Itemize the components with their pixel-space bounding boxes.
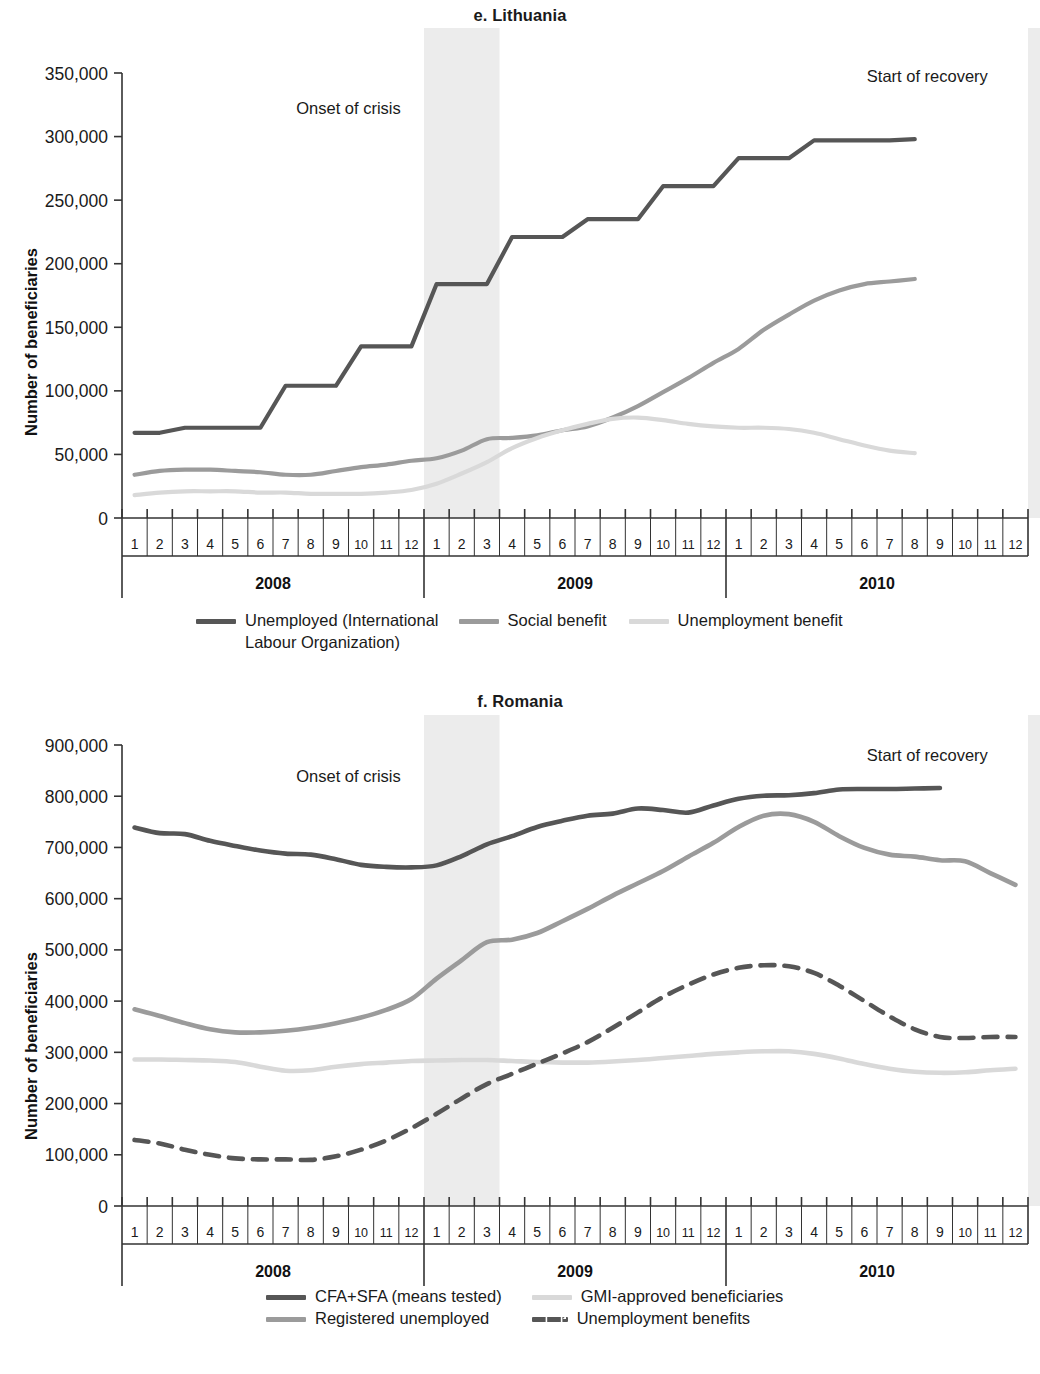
chart-panel-romania: f. Romania Number of beneficiaries 0100,… xyxy=(0,690,1040,1374)
legend-label: Unemployment benefits xyxy=(577,1308,750,1330)
y-tick-label: 900,000 xyxy=(45,736,109,756)
legend-label: Social benefit xyxy=(508,610,607,632)
legend-swatch-line-icon xyxy=(629,619,669,624)
y-tick-label: 800,000 xyxy=(45,787,109,807)
y-tick-label: 0 xyxy=(98,509,108,529)
y-tick-label: 100,000 xyxy=(45,1145,109,1165)
x-month-label: 9 xyxy=(634,1224,642,1240)
x-month-label: 12 xyxy=(404,538,418,552)
legend-label: CFA+SFA (means tested) xyxy=(315,1286,502,1308)
series-line xyxy=(135,788,940,867)
x-month-label: 11 xyxy=(984,538,997,552)
y-tick-label: 600,000 xyxy=(45,889,109,909)
y-tick-label: 300,000 xyxy=(45,1043,109,1063)
legend-item[interactable]: CFA+SFA (means tested) xyxy=(266,1286,502,1308)
legend-item[interactable]: Unemployment benefits xyxy=(532,1308,750,1330)
x-month-label: 3 xyxy=(785,536,793,552)
x-month-label: 9 xyxy=(634,536,642,552)
x-month-label: 7 xyxy=(282,1224,290,1240)
x-month-label: 1 xyxy=(433,1224,441,1240)
shaded-band-recovery xyxy=(1028,715,1040,1206)
x-month-label: 3 xyxy=(483,1224,491,1240)
x-month-label: 10 xyxy=(354,1226,368,1240)
x-year-label: 2008 xyxy=(255,575,291,592)
x-month-label: 5 xyxy=(231,536,239,552)
x-month-label: 7 xyxy=(886,1224,894,1240)
x-month-label: 11 xyxy=(984,1226,997,1240)
y-tick-label: 500,000 xyxy=(45,940,109,960)
x-month-label: 6 xyxy=(559,536,567,552)
x-month-label: 12 xyxy=(1008,1226,1022,1240)
series-line xyxy=(135,814,1016,1033)
x-month-label: 4 xyxy=(508,536,516,552)
legend-item[interactable]: Registered unemployed xyxy=(266,1308,502,1330)
x-month-label: 7 xyxy=(886,536,894,552)
x-month-label: 10 xyxy=(656,538,670,552)
x-month-label: 5 xyxy=(533,1224,541,1240)
y-tick-label: 150,000 xyxy=(45,318,109,338)
legend-item[interactable]: Unemployment benefit xyxy=(629,610,843,632)
x-month-label: 4 xyxy=(508,1224,516,1240)
x-month-label: 10 xyxy=(958,1226,972,1240)
legend-swatch-line-icon xyxy=(266,1317,306,1322)
x-month-label: 4 xyxy=(206,1224,214,1240)
x-year-label: 2008 xyxy=(255,1263,291,1280)
x-month-label: 9 xyxy=(936,536,944,552)
x-month-label: 10 xyxy=(354,538,368,552)
legend-label: Registered unemployed xyxy=(315,1308,489,1330)
chart-panel-lithuania: e. Lithuania Number of beneficiaries 050… xyxy=(0,0,1040,690)
annotation-start-of-recovery: Start of recovery xyxy=(867,67,989,85)
x-month-label: 8 xyxy=(609,1224,617,1240)
x-month-label: 10 xyxy=(656,1226,670,1240)
x-month-label: 8 xyxy=(911,536,919,552)
x-month-label: 8 xyxy=(307,536,315,552)
legend-item[interactable]: GMI-approved beneficiaries xyxy=(532,1286,784,1308)
chart-svg-romania: 0100,000200,000300,000400,000500,000600,… xyxy=(0,690,1040,1290)
x-year-label: 2010 xyxy=(859,575,895,592)
x-month-label: 5 xyxy=(533,536,541,552)
x-month-label: 11 xyxy=(380,1226,393,1240)
x-month-label: 1 xyxy=(735,536,743,552)
x-month-label: 12 xyxy=(706,538,720,552)
legend-item[interactable]: Social benefit xyxy=(459,610,607,632)
x-month-label: 9 xyxy=(332,1224,340,1240)
x-month-label: 6 xyxy=(257,536,265,552)
legend-swatch-line-icon xyxy=(266,1295,306,1300)
y-tick-label: 200,000 xyxy=(45,254,109,274)
x-month-label: 3 xyxy=(181,1224,189,1240)
y-tick-label: 700,000 xyxy=(45,838,109,858)
x-month-label: 8 xyxy=(911,1224,919,1240)
x-month-label: 6 xyxy=(559,1224,567,1240)
x-month-label: 5 xyxy=(231,1224,239,1240)
x-month-label: 1 xyxy=(131,536,139,552)
x-month-label: 2 xyxy=(760,536,768,552)
annotation-start-of-recovery: Start of recovery xyxy=(867,746,989,764)
chart-legend-lithuania: Unemployed (International Labour Organiz… xyxy=(196,610,843,654)
x-month-label: 2 xyxy=(156,536,164,552)
chart-legend-romania: CFA+SFA (means tested)GMI-approved benef… xyxy=(266,1286,783,1330)
annotation-onset-of-crisis: Onset of crisis xyxy=(296,99,401,117)
x-month-label: 12 xyxy=(706,1226,720,1240)
x-month-label: 9 xyxy=(332,536,340,552)
legend-swatch-dashed-icon xyxy=(532,1317,568,1322)
series-line xyxy=(135,1051,1016,1073)
x-month-label: 3 xyxy=(181,536,189,552)
x-month-label: 2 xyxy=(458,536,466,552)
x-month-label: 1 xyxy=(433,536,441,552)
y-tick-label: 250,000 xyxy=(45,191,109,211)
x-month-label: 1 xyxy=(735,1224,743,1240)
legend-row: CFA+SFA (means tested)GMI-approved benef… xyxy=(266,1286,783,1308)
y-tick-label: 50,000 xyxy=(54,445,108,465)
x-month-label: 6 xyxy=(861,1224,869,1240)
x-month-label: 2 xyxy=(156,1224,164,1240)
x-month-label: 4 xyxy=(810,1224,818,1240)
legend-item[interactable]: Unemployed (International Labour Organiz… xyxy=(196,610,439,654)
x-month-label: 6 xyxy=(861,536,869,552)
x-month-label: 6 xyxy=(257,1224,265,1240)
y-tick-label: 0 xyxy=(98,1197,108,1217)
legend-swatch-line-icon xyxy=(459,619,499,624)
x-month-label: 12 xyxy=(1008,538,1022,552)
x-month-label: 3 xyxy=(785,1224,793,1240)
x-month-label: 5 xyxy=(835,536,843,552)
x-month-label: 11 xyxy=(380,538,393,552)
